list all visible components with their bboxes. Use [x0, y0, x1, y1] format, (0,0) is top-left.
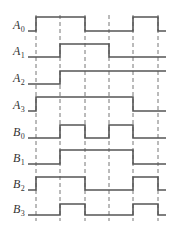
- waveform-b1: [28, 150, 166, 164]
- waveform-a1: [28, 44, 166, 57]
- waveform-a0: [28, 17, 166, 31]
- signal-label-b3: B3: [13, 202, 25, 218]
- waveform-b2: [28, 177, 166, 190]
- signal-label-b1: B1: [13, 151, 25, 167]
- signal-label-b0: B0: [13, 125, 25, 141]
- signal-label-a1: A1: [12, 44, 25, 60]
- waveform-a3: [28, 97, 166, 111]
- waveforms: [28, 17, 166, 215]
- signal-label-b2: B2: [13, 177, 25, 193]
- signal-label-a0: A0: [12, 18, 25, 34]
- timing-diagram: A0A1A2A3B0B1B2B3: [0, 0, 176, 229]
- waveform-b3: [28, 204, 166, 215]
- signal-labels: A0A1A2A3B0B1B2B3: [12, 18, 25, 218]
- waveform-a2: [28, 71, 166, 84]
- waveform-b0: [28, 125, 166, 138]
- signal-label-a2: A2: [12, 71, 25, 87]
- signal-label-a3: A3: [12, 98, 25, 114]
